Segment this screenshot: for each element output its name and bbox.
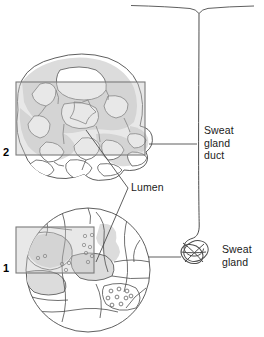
inset-2-number-label: 2 — [3, 147, 9, 158]
inset-2-box — [16, 82, 145, 155]
skin-surface-line — [131, 6, 199, 14]
skin-surface-group — [131, 6, 254, 14]
low-magnification-circular-section — [16, 208, 150, 332]
sweat-gland-duct-tube — [184, 14, 204, 257]
coiled-secretory-gland — [178, 237, 212, 267]
high-magnification-cell-detail — [16, 54, 152, 180]
inset-1-number-label: 1 — [3, 263, 9, 274]
lumen-label: Lumen — [131, 181, 164, 194]
inset-1-box — [16, 227, 94, 273]
sweat-gland-duct-label: Sweat gland duct — [204, 124, 234, 162]
skin-surface-line-right — [199, 6, 254, 14]
sweat-gland-label: Sweat gland — [222, 243, 252, 268]
sweat-gland-diagram — [0, 0, 264, 337]
